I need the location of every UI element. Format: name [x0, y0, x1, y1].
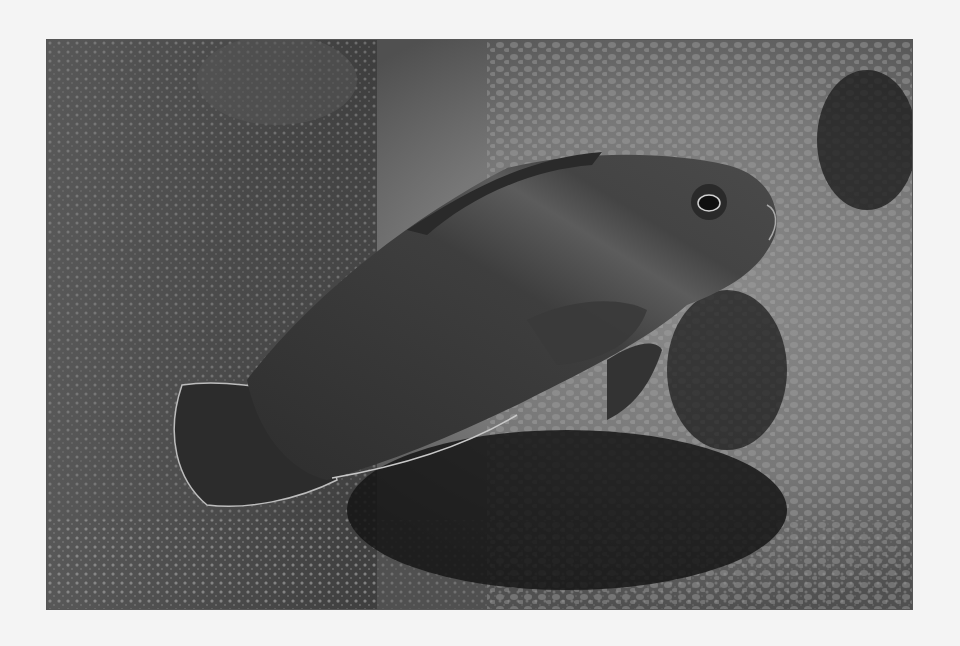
fish-reef-image [47, 40, 912, 609]
photo [47, 40, 912, 609]
